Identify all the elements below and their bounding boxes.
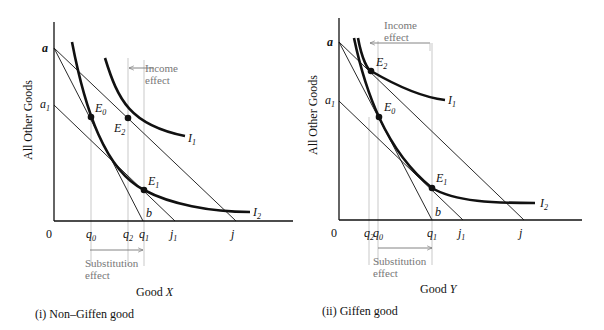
origin-label: 0: [46, 227, 52, 241]
label-b: b: [435, 205, 441, 219]
origin-label: 0: [331, 226, 337, 240]
income-effect-text: Income: [384, 19, 417, 31]
label-a: a: [42, 41, 48, 55]
equilibrium-point-e1: [429, 185, 436, 192]
substitution-effect-text2: effect: [373, 267, 398, 279]
tick-label-j1: j1: [456, 226, 465, 242]
x-axis-label: Good X: [136, 285, 174, 299]
tick-label-q0: q0: [86, 227, 96, 243]
tick-label-q1: q1: [427, 226, 437, 242]
equilibrium-point-e0: [88, 114, 95, 121]
giffen-diagram-figure: aa1bE0E2E1I1I20q0q2q1j1jIncomeeffectSubs…: [0, 0, 604, 330]
label-a1: a1: [325, 93, 335, 109]
budget-line-aj: [339, 42, 524, 220]
tick-label-j: j: [517, 226, 523, 240]
label-a1: a1: [40, 97, 50, 113]
income-effect-text2: effect: [384, 31, 409, 43]
panel-non-giffen: aa1bE0E2E1I1I20q0q2q1j1jIncomeeffectSubs…: [21, 22, 293, 321]
label-b: b: [146, 206, 152, 220]
income-effect-text2: effect: [145, 74, 170, 86]
substitution-effect-text: Substitution: [373, 255, 427, 267]
tick-label-q2: q2: [123, 227, 133, 243]
tick-label-j1: j1: [168, 227, 177, 243]
label-e1: E1: [435, 171, 447, 187]
x-axis-label: Good Y: [420, 282, 458, 296]
tick-label-j: j: [229, 227, 235, 241]
panel-caption: (i) Non–Giffen good: [35, 307, 134, 321]
budget-line-a1j1: [339, 101, 463, 220]
label-e2: E2: [375, 55, 387, 71]
label-i1: I1: [187, 131, 196, 147]
equilibrium-point-e2: [125, 115, 132, 122]
panel-caption: (ii) Giffen good: [322, 304, 398, 318]
label-e0: E0: [383, 100, 395, 116]
label-i2: I2: [252, 205, 261, 221]
substitution-effect-text2: effect: [85, 269, 110, 281]
equilibrium-point-e2: [368, 68, 375, 75]
y-axis-label: All Other Goods: [306, 75, 320, 155]
label-e1: E1: [147, 174, 159, 190]
equilibrium-point-e0: [376, 114, 383, 121]
income-effect-text: Income: [145, 62, 178, 74]
label-e2: E2: [113, 121, 125, 137]
label-a: a: [327, 35, 333, 49]
tick-label-q0: q0: [373, 226, 383, 242]
label-e0: E0: [94, 101, 106, 117]
substitution-effect-text: Substitution: [85, 257, 139, 269]
equilibrium-point-e1: [141, 187, 148, 194]
panel-giffen: aa1bE2E0E1I1I20q2q0q1j1jIncomeeffectSubs…: [306, 18, 582, 318]
diagram-canvas: aa1bE0E2E1I1I20q0q2q1j1jIncomeeffectSubs…: [0, 0, 604, 330]
label-i1: I1: [447, 93, 456, 109]
label-i2: I2: [539, 196, 548, 212]
tick-label-q1: q1: [139, 227, 149, 243]
y-axis-label: All Other Goods: [21, 80, 35, 160]
